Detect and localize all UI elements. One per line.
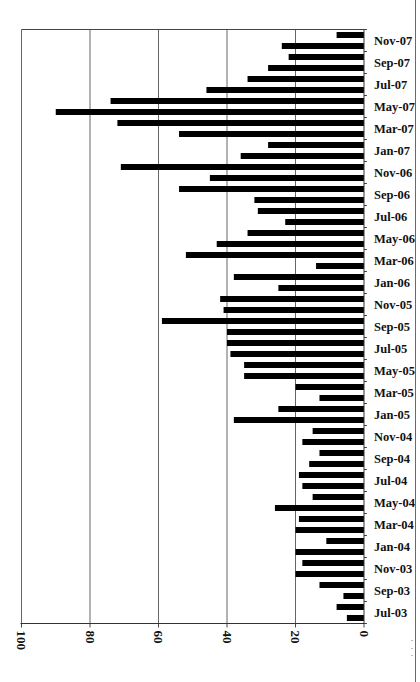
category-label: Jul-05 (374, 342, 407, 356)
bar-jan-05 (234, 417, 364, 423)
bar-aug-05 (227, 340, 364, 346)
scan-speck (411, 640, 413, 641)
category-axis-labels: Nov-07Sep-07Jul-07May-07Mar-07Jan-07Nov-… (374, 34, 416, 620)
bar-chart: 100806040200 Nov-07Sep-07Jul-07May-07Mar… (0, 0, 420, 682)
bar-sep-07 (268, 65, 364, 71)
bar-jan-07 (241, 153, 364, 159)
bar-oct-03 (319, 582, 364, 588)
bar-feb-05 (278, 406, 364, 412)
bar-apr-05 (296, 384, 365, 390)
value-tick-label: 80 (83, 631, 98, 644)
bar-mar-07 (179, 131, 364, 137)
page-edge-line (415, 0, 416, 682)
category-label: Nov-06 (374, 166, 412, 180)
category-label: Nov-03 (374, 562, 412, 576)
bar-mar-06 (316, 263, 364, 269)
category-label: May-07 (374, 100, 415, 114)
category-label: Sep-05 (374, 320, 410, 334)
bar-may-04 (275, 505, 364, 511)
value-tick-label: 0 (357, 631, 372, 638)
bar-aug-03 (337, 604, 364, 610)
bar-nov-05 (224, 307, 364, 313)
category-label: Sep-04 (374, 452, 411, 466)
bar-mar-04 (296, 527, 365, 533)
bar-jul-07 (206, 87, 364, 93)
bar-oct-06 (179, 186, 364, 192)
category-label: Sep-07 (374, 56, 410, 70)
category-label: Mar-05 (374, 386, 414, 400)
gridlines (22, 30, 296, 624)
category-label: Mar-06 (374, 254, 414, 268)
value-axis-labels: 100806040200 (14, 631, 372, 651)
bar-dec-03 (302, 560, 364, 566)
category-label: Jul-03 (374, 606, 407, 620)
category-label: Nov-05 (374, 298, 412, 312)
scan-speck (411, 655, 413, 656)
value-tick-label: 40 (220, 631, 235, 644)
category-label: Jan-06 (374, 276, 410, 290)
bar-mar-05 (319, 395, 364, 401)
bar-sep-04 (309, 461, 364, 467)
chart-canvas: 100806040200 Nov-07Sep-07Jul-07May-07Mar… (0, 0, 420, 682)
category-label: May-04 (374, 496, 416, 510)
bars (56, 32, 364, 621)
category-label: Mar-04 (374, 518, 415, 532)
bar-jul-04 (302, 483, 364, 489)
scan-speck (411, 648, 413, 649)
bar-nov-07 (282, 43, 364, 49)
bar-jun-04 (313, 494, 364, 500)
bar-oct-04 (319, 450, 364, 456)
bar-nov-03 (296, 571, 365, 577)
bar-sep-03 (343, 593, 364, 599)
category-label: Jan-07 (374, 144, 410, 158)
category-label: Nov-04 (374, 430, 413, 444)
bar-feb-04 (326, 538, 364, 544)
bar-jan-04 (296, 549, 365, 555)
axes (21, 30, 368, 628)
bar-dec-05 (220, 296, 364, 302)
value-tick-label: 20 (288, 631, 303, 644)
bar-feb-06 (234, 274, 364, 280)
bar-apr-07 (117, 120, 364, 126)
value-tick-label: 100 (14, 631, 29, 651)
bar-jun-06 (248, 230, 364, 236)
bar-sep-06 (254, 197, 364, 203)
bar-aug-04 (299, 472, 364, 478)
bar-jun-05 (244, 362, 364, 368)
bar-oct-07 (289, 54, 364, 60)
category-label: Sep-06 (374, 188, 410, 202)
bar-jul-03 (347, 615, 364, 621)
bar-may-06 (217, 241, 364, 247)
bar-oct-05 (162, 318, 364, 324)
bar-jul-05 (230, 351, 364, 357)
category-label: Sep-03 (374, 584, 410, 598)
category-label: Jan-05 (374, 408, 410, 422)
bar-nov-06 (210, 175, 364, 181)
bar-nov-04 (302, 439, 364, 445)
bar-dec-06 (121, 164, 364, 170)
bar-may-05 (244, 373, 364, 379)
bar-jun-07 (111, 98, 364, 104)
bar-jan-06 (278, 285, 364, 291)
category-label: Jul-07 (374, 78, 407, 92)
bar-sep-05 (227, 329, 364, 335)
bar-apr-06 (186, 252, 364, 258)
bar-aug-06 (258, 208, 364, 214)
category-label: Jul-04 (374, 474, 408, 488)
category-label: Jul-06 (374, 210, 407, 224)
category-label: May-05 (374, 364, 415, 378)
category-label: Nov-07 (374, 34, 412, 48)
bar-dec-07 (337, 32, 364, 38)
bar-feb-07 (268, 142, 364, 148)
value-tick-label: 60 (151, 631, 166, 644)
bar-may-07 (56, 109, 364, 115)
category-label: Mar-07 (374, 122, 414, 136)
category-label: May-06 (374, 232, 415, 246)
bar-apr-04 (299, 516, 364, 522)
bar-dec-04 (313, 428, 364, 434)
bar-jul-06 (285, 219, 364, 225)
bar-aug-07 (248, 76, 364, 82)
category-label: Jan-04 (374, 540, 411, 554)
